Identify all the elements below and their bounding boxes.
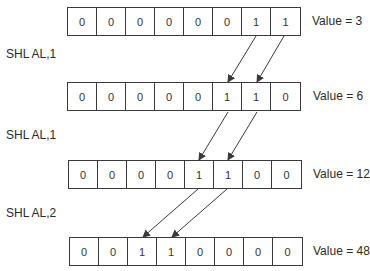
operation-label-3: SHL AL,2 bbox=[6, 206, 56, 220]
register-row-2: 0 0 0 0 0 1 1 0 bbox=[67, 82, 301, 111]
bit-cell: 1 bbox=[128, 238, 157, 265]
arrow-icon bbox=[199, 112, 228, 160]
bit-cell: 0 bbox=[126, 8, 155, 35]
register-row-4: 0 0 1 1 0 0 0 0 bbox=[69, 237, 303, 266]
bit-cell: 0 bbox=[244, 238, 273, 265]
bit-cell: 0 bbox=[156, 161, 185, 188]
bit-cell: 0 bbox=[126, 83, 155, 110]
bit-cell: 0 bbox=[184, 8, 213, 35]
bit-cell: 0 bbox=[215, 238, 244, 265]
bit-cell: 0 bbox=[127, 161, 156, 188]
bit-cell: 1 bbox=[213, 83, 242, 110]
bit-cell: 1 bbox=[242, 83, 271, 110]
value-label-row-3: Value = 12 bbox=[313, 167, 370, 181]
bit-cell: 0 bbox=[186, 238, 215, 265]
bit-cell: 0 bbox=[68, 8, 97, 35]
register-row-1: 0 0 0 0 0 0 1 1 bbox=[67, 7, 301, 36]
bit-cell: 0 bbox=[243, 161, 272, 188]
bit-cell: 0 bbox=[97, 83, 126, 110]
bit-cell: 0 bbox=[69, 161, 98, 188]
operation-label-1: SHL AL,1 bbox=[6, 47, 56, 61]
bit-cell: 0 bbox=[273, 238, 302, 265]
value-label-row-4: Value = 48 bbox=[313, 244, 370, 258]
bit-cell: 0 bbox=[98, 161, 127, 188]
arrow-icon bbox=[143, 189, 198, 237]
arrow-icon bbox=[228, 36, 256, 82]
bit-cell: 1 bbox=[271, 8, 300, 35]
bit-cell: 1 bbox=[157, 238, 186, 265]
bit-cell: 0 bbox=[213, 8, 242, 35]
value-label-row-2: Value = 6 bbox=[313, 89, 363, 103]
bit-cell: 0 bbox=[97, 8, 126, 35]
arrow-icon bbox=[172, 189, 227, 237]
value-label-row-1: Value = 3 bbox=[312, 14, 362, 28]
bit-cell: 0 bbox=[70, 238, 99, 265]
bit-cell: 0 bbox=[272, 161, 301, 188]
arrow-icon bbox=[228, 112, 257, 160]
bit-cell: 0 bbox=[155, 8, 184, 35]
bit-cell: 0 bbox=[68, 83, 97, 110]
bit-cell: 0 bbox=[99, 238, 128, 265]
bit-cell: 1 bbox=[214, 161, 243, 188]
bit-cell: 0 bbox=[271, 83, 300, 110]
arrow-icon bbox=[257, 36, 284, 82]
bit-cell: 0 bbox=[155, 83, 184, 110]
bit-cell: 1 bbox=[185, 161, 214, 188]
bit-cell: 0 bbox=[184, 83, 213, 110]
bit-cell: 1 bbox=[242, 8, 271, 35]
operation-label-2: SHL AL,1 bbox=[6, 128, 56, 142]
register-row-3: 0 0 0 0 1 1 0 0 bbox=[68, 160, 302, 189]
